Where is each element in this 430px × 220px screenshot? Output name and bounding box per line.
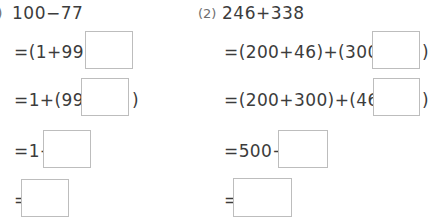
problem-2-number: (2) bbox=[198, 7, 216, 20]
problem-1-step-3-answer-box[interactable] bbox=[43, 130, 91, 168]
problem-2-step-4-answer-box[interactable] bbox=[233, 178, 292, 217]
problem-2-title: 246+338 bbox=[222, 5, 305, 22]
problem-1-step-4-answer-box[interactable] bbox=[21, 179, 69, 217]
problem-1-title: 100−77 bbox=[12, 5, 83, 22]
problem-2-step-2-closing-paren: ) bbox=[422, 92, 429, 109]
problem-1-step-2-closing-paren: ) bbox=[132, 92, 139, 109]
problem-1-step-2-answer-box[interactable] bbox=[81, 78, 129, 116]
problem-2-step-1-closing-paren: ) bbox=[422, 44, 429, 61]
problem-2-step-3-answer-box[interactable] bbox=[278, 130, 328, 168]
worksheet: ) 100−77 =(1+99)− =1+(99− ) =1+ = (2) 24… bbox=[0, 0, 430, 220]
problem-2-step-1-expression: =(200+46)+(300+ bbox=[224, 44, 393, 61]
problem-2-step-2-answer-box[interactable] bbox=[373, 78, 420, 116]
problem-1-number: ) bbox=[0, 6, 2, 20]
problem-2-step-2-expression: =(200+300)+(46+ bbox=[224, 92, 393, 109]
problem-2-step-1-answer-box[interactable] bbox=[372, 31, 420, 69]
problem-1-step-1-answer-box[interactable] bbox=[85, 31, 133, 69]
